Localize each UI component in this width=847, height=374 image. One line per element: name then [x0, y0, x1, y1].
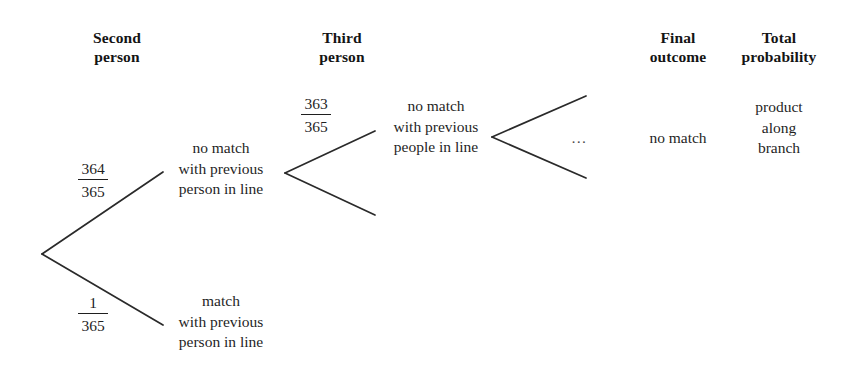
fraction-bar	[78, 179, 108, 180]
node-third-person-no-match: no match with previous people in line	[375, 96, 497, 158]
node-second-person-match: match with previous person in line	[157, 291, 285, 353]
node-second-person-no-match: no match with previous person in line	[157, 138, 285, 200]
fraction-1-over-365: 1 365	[72, 294, 114, 334]
fraction-numerator: 363	[295, 95, 337, 113]
fraction-363-over-365: 363 365	[295, 95, 337, 135]
fraction-denominator: 365	[72, 316, 114, 334]
ellipsis-icon: …	[571, 130, 588, 146]
fraction-denominator: 365	[295, 117, 337, 135]
fraction-numerator: 364	[72, 160, 114, 178]
branch-second-to-third-match	[285, 173, 375, 215]
fraction-364-over-365: 364 365	[72, 160, 114, 200]
probability-tree-diagram: Second person Third person Final outcome…	[0, 0, 847, 374]
node-total-probability-product-along-branch: product along branch	[719, 97, 839, 159]
fraction-numerator: 1	[72, 294, 114, 312]
fraction-bar	[78, 313, 108, 314]
column-header-second-person: Second person	[57, 28, 177, 66]
branch-second-to-third-no-match	[285, 131, 375, 173]
column-header-total-probability: Total probability	[714, 28, 844, 66]
column-header-third-person: Third person	[282, 28, 402, 66]
fraction-denominator: 365	[72, 182, 114, 200]
fraction-bar	[301, 114, 331, 115]
